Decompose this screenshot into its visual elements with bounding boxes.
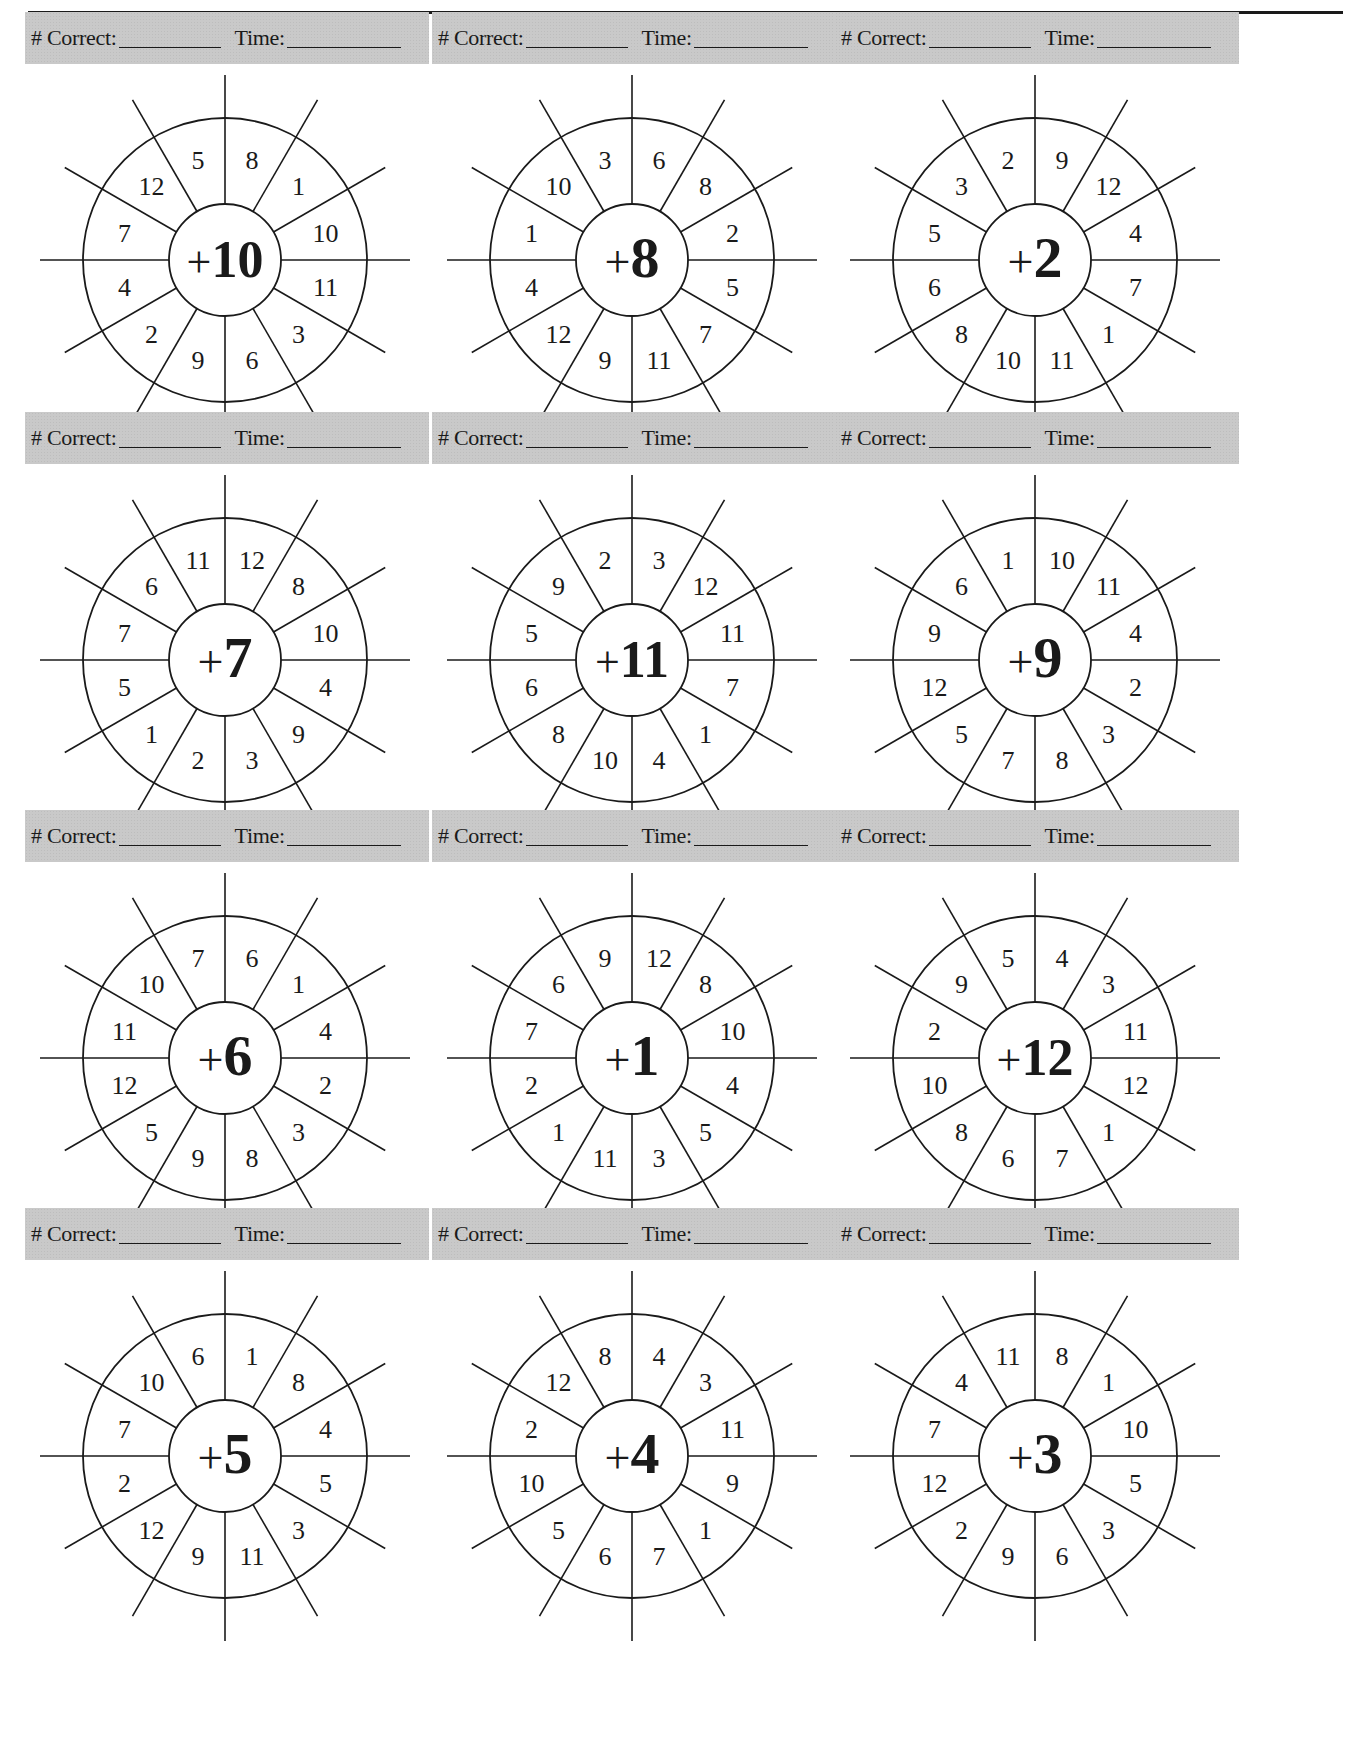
sector-number: 5	[699, 1118, 712, 1147]
sector-number: 6	[652, 146, 665, 175]
sector-number: 7	[699, 320, 712, 349]
plus-sign: +	[1008, 236, 1034, 287]
sector-number: 10	[545, 172, 571, 201]
time-blank[interactable]	[1097, 29, 1211, 48]
sector-number: 12	[922, 673, 948, 702]
sector-number: 3	[292, 320, 305, 349]
sector-number: 3	[292, 1118, 305, 1147]
time-blank[interactable]	[287, 29, 401, 48]
addend-label: +11	[595, 631, 669, 688]
correct-label: # Correct:	[841, 25, 927, 51]
score-header: # Correct:Time:	[25, 12, 429, 64]
sector-number: 11	[646, 346, 671, 375]
sector-number: 4	[118, 273, 131, 302]
time-blank[interactable]	[1097, 429, 1211, 448]
score-header: # Correct:Time:	[835, 1208, 1239, 1260]
time-label: Time:	[1045, 823, 1095, 849]
addend-value: 6	[223, 1023, 252, 1088]
plus-sign: +	[198, 1034, 224, 1085]
sector-number: 2	[145, 320, 158, 349]
time-blank[interactable]	[694, 429, 808, 448]
sector-number: 5	[118, 673, 131, 702]
sector-number: 12	[693, 572, 719, 601]
drill-cell: # Correct:Time:184531191227106+5	[25, 1208, 445, 1653]
correct-blank[interactable]	[526, 827, 628, 846]
sector-number: 10	[592, 746, 618, 775]
wheel-spoke	[1063, 1504, 1128, 1616]
sector-number: 1	[245, 1342, 258, 1371]
sector-number: 8	[292, 1368, 305, 1397]
time-blank[interactable]	[694, 827, 808, 846]
correct-blank[interactable]	[929, 29, 1031, 48]
correct-blank[interactable]	[929, 1225, 1031, 1244]
sector-number: 7	[525, 1017, 538, 1046]
correct-blank[interactable]	[929, 827, 1031, 846]
addend-value: 2	[1033, 225, 1062, 290]
sector-number: 1	[292, 172, 305, 201]
correct-blank[interactable]	[526, 429, 628, 448]
time-blank[interactable]	[694, 29, 808, 48]
sector-number: 3	[292, 1516, 305, 1545]
correct-blank[interactable]	[526, 1225, 628, 1244]
sector-number: 4	[1055, 944, 1068, 973]
sector-number: 8	[292, 572, 305, 601]
sector-number: 7	[192, 944, 205, 973]
sector-number: 7	[726, 673, 739, 702]
correct-blank[interactable]	[119, 29, 221, 48]
sector-number: 3	[1102, 1516, 1115, 1545]
addition-wheel: 128104531112769+1	[442, 868, 822, 1248]
drill-cell: # Correct:Time:431112176810295+12	[835, 810, 1255, 1255]
wheel-spoke	[943, 1106, 1008, 1218]
score-header: # Correct:Time:	[835, 412, 1239, 464]
sector-number: 4	[525, 273, 538, 302]
score-header: # Correct:Time:	[25, 1208, 429, 1260]
sector-number: 6	[525, 673, 538, 702]
sector-number: 11	[720, 1415, 745, 1444]
correct-blank[interactable]	[526, 29, 628, 48]
time-blank[interactable]	[287, 827, 401, 846]
correct-blank[interactable]	[119, 1225, 221, 1244]
correct-label: # Correct:	[31, 1221, 117, 1247]
correct-blank[interactable]	[119, 429, 221, 448]
sector-number: 3	[652, 1144, 665, 1173]
plus-sign: +	[605, 236, 631, 287]
time-blank[interactable]	[1097, 1225, 1211, 1244]
sector-number: 2	[1129, 673, 1142, 702]
time-blank[interactable]	[1097, 827, 1211, 846]
sector-number: 3	[652, 546, 665, 575]
sector-number: 8	[699, 970, 712, 999]
sector-number: 6	[1002, 1144, 1015, 1173]
time-blank[interactable]	[287, 1225, 401, 1244]
drill-cell: # Correct:Time:811053692127411+3	[835, 1208, 1255, 1653]
sector-number: 3	[955, 172, 968, 201]
plus-sign: +	[1008, 636, 1034, 687]
sector-number: 11	[593, 1144, 618, 1173]
wheel-spoke	[660, 708, 725, 820]
sector-number: 6	[192, 1342, 205, 1371]
addend-label: +10	[187, 231, 264, 288]
sector-number: 7	[1055, 1144, 1068, 1173]
plus-sign: +	[595, 638, 620, 687]
sector-number: 12	[545, 1368, 571, 1397]
addend-value: 10	[211, 231, 263, 288]
plus-sign: +	[198, 1432, 224, 1483]
time-blank[interactable]	[694, 1225, 808, 1244]
wheel-spoke	[943, 500, 1008, 612]
sector-number: 2	[955, 1516, 968, 1545]
plus-sign: +	[198, 636, 224, 687]
correct-blank[interactable]	[119, 827, 221, 846]
sector-number: 4	[1129, 619, 1142, 648]
sector-number: 1	[699, 720, 712, 749]
sector-number: 8	[699, 172, 712, 201]
correct-blank[interactable]	[929, 429, 1031, 448]
sector-number: 1	[699, 1516, 712, 1545]
sector-number: 6	[1055, 1542, 1068, 1571]
correct-label: # Correct:	[438, 425, 524, 451]
sector-number: 4	[726, 1071, 739, 1100]
sector-number: 3	[699, 1368, 712, 1397]
sector-number: 4	[652, 746, 665, 775]
sector-number: 8	[1055, 746, 1068, 775]
sector-number: 8	[245, 146, 258, 175]
drill-cell: # Correct:Time:128104531112769+1	[432, 810, 852, 1255]
time-blank[interactable]	[287, 429, 401, 448]
